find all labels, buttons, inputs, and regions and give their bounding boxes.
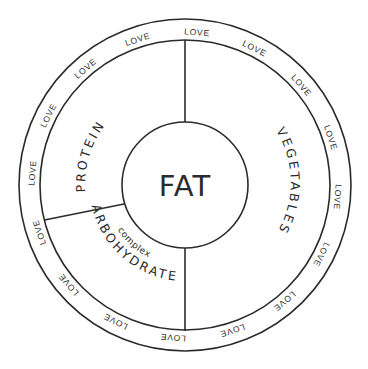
divider-left xyxy=(45,204,125,220)
segment-label-protein: PROTEIN xyxy=(73,117,108,193)
love-ring-item: LOVE xyxy=(241,38,269,59)
center-label-fat: FAT xyxy=(159,169,211,203)
love-ring-item: LOVE xyxy=(102,311,130,332)
love-ring-item: LOVE xyxy=(160,332,187,344)
love-ring-item: LOVE xyxy=(311,241,332,269)
love-ring-item: LOVE xyxy=(38,102,59,130)
love-ring-item: LOVE xyxy=(184,26,211,38)
love-ring-item: LOVE xyxy=(26,160,38,187)
nutrition-wheel-diagram: FAT PROTEIN VEGETABLES CARBOHYDRATES com… xyxy=(0,0,368,369)
segment-label-vegetables: VEGETABLES xyxy=(273,125,303,238)
love-ring-item: LOVE xyxy=(332,184,344,211)
